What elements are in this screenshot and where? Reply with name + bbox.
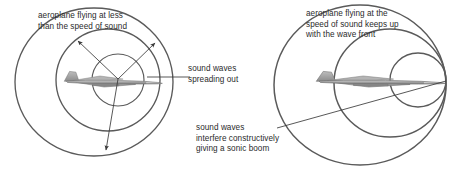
right-innermost-wavefront — [390, 53, 446, 107]
left-spread-arrows — [78, 41, 155, 150]
spread-arrow-upper-right — [118, 43, 155, 79]
right-aircraft — [316, 71, 445, 87]
sonic-boom-figure: aeroplane flying at less than the speed … — [0, 0, 454, 177]
right-diagram-caption: aeroplane flying at the speed of sound k… — [306, 9, 399, 41]
sonic-boom-label: sound waves interfere constructively giv… — [196, 123, 279, 155]
right-leader-line — [277, 81, 446, 128]
left-diagram-caption: aeroplane flying at less than the speed … — [38, 11, 127, 32]
spread-arrow-upper-left — [78, 41, 118, 79]
left-aircraft — [64, 71, 162, 87]
spread-arrow-lower-left — [106, 79, 118, 150]
left-sound-waves-label: sound waves spreading out — [188, 64, 238, 85]
